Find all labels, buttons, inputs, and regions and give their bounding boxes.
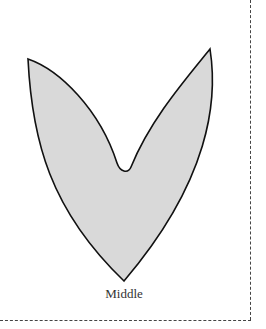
cut-line-vertical (250, 0, 251, 320)
middle-petal-shape (0, 0, 266, 329)
shape-caption: Middle (0, 286, 248, 302)
cut-line-horizontal (0, 320, 251, 321)
